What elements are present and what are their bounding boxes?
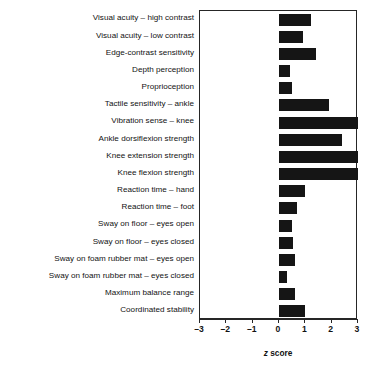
x-tick-mark <box>199 319 200 323</box>
bar <box>279 65 290 77</box>
x-tick-mark <box>252 319 253 323</box>
bar <box>279 288 295 300</box>
category-label-column: Visual acuity – high contrastVisual acui… <box>0 10 194 319</box>
bar <box>279 185 305 197</box>
x-tick-mark <box>225 319 226 323</box>
horizontal-bar-chart: Visual acuity – high contrastVisual acui… <box>0 0 377 377</box>
x-axis: –3–2–10123 <box>199 319 357 349</box>
x-tick-label: 3 <box>355 324 360 334</box>
bar <box>279 117 358 129</box>
bar <box>279 168 358 180</box>
bar <box>279 31 303 43</box>
bar <box>279 220 292 232</box>
bar <box>279 254 295 266</box>
category-label: Knee flexion strength <box>0 168 194 178</box>
x-tick-label: 0 <box>276 324 281 334</box>
category-label: Ankle dorsiflexion strength <box>0 134 194 144</box>
category-label: Visual acuity – low contrast <box>0 31 194 41</box>
bar <box>279 202 297 214</box>
x-tick-mark <box>357 319 358 323</box>
category-label: Maximum balance range <box>0 288 194 298</box>
category-label: Visual acuity – high contrast <box>0 13 194 23</box>
category-label: Knee extension strength <box>0 151 194 161</box>
bar <box>279 99 329 111</box>
bar <box>279 82 292 94</box>
bar <box>279 48 316 60</box>
x-tick-mark <box>278 319 279 323</box>
category-label: Sway on floor – eyes open <box>0 219 194 229</box>
bar <box>279 134 342 146</box>
x-axis-title-text: score <box>268 348 292 358</box>
bar <box>279 271 287 283</box>
bar <box>279 237 293 249</box>
x-tick-label: 2 <box>328 324 333 334</box>
category-label: Sway on floor – eyes closed <box>0 237 194 247</box>
category-label: Coordinated stability <box>0 305 194 315</box>
bar <box>279 151 358 163</box>
x-tick-label: 1 <box>302 324 307 334</box>
category-label: Sway on foam rubber mat – eyes closed <box>0 271 194 281</box>
bar <box>279 305 305 317</box>
x-tick-label: –2 <box>221 324 231 334</box>
x-tick-mark <box>304 319 305 323</box>
category-label: Depth perception <box>0 65 194 75</box>
category-label: Sway on foam rubber mat – eyes open <box>0 254 194 264</box>
x-tick-label: –1 <box>247 324 257 334</box>
x-tick-label: –3 <box>194 324 204 334</box>
category-label: Edge-contrast sensitivity <box>0 48 194 58</box>
x-tick-mark <box>331 319 332 323</box>
category-label: Proprioception <box>0 82 194 92</box>
plot-area <box>200 11 356 318</box>
bar <box>279 14 311 26</box>
category-label: Tactile sensitivity – ankle <box>0 99 194 109</box>
plot-frame <box>199 10 357 319</box>
category-label: Reaction time – hand <box>0 185 194 195</box>
category-label: Vibration sense – knee <box>0 116 194 126</box>
category-label: Reaction time – foot <box>0 202 194 212</box>
x-axis-title: z score <box>199 348 357 358</box>
